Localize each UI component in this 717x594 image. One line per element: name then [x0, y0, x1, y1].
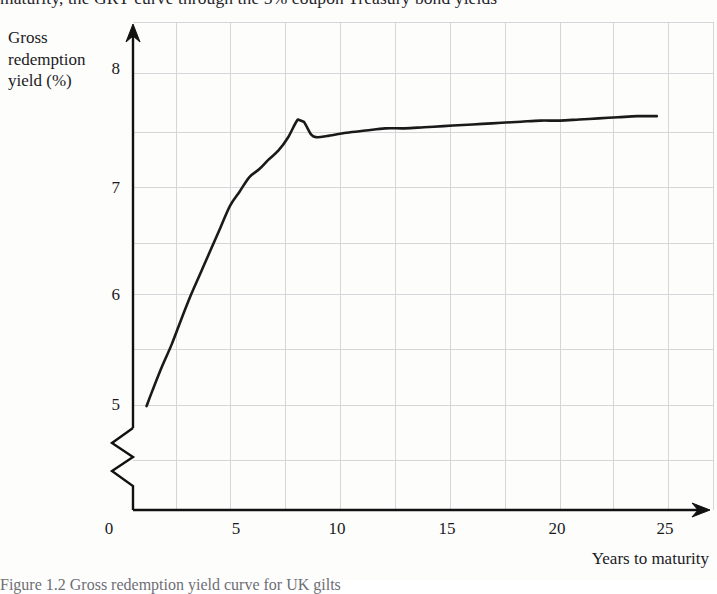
yield-curve-series: [147, 116, 657, 406]
vertical-gridlines: [176, 22, 713, 510]
x-axis: [133, 503, 710, 517]
horizontal-gridlines: [133, 22, 713, 460]
y-axis: [112, 24, 140, 510]
page-bottom-clipped-text: Figure 1.2 Gross redemption yield curve …: [0, 576, 717, 594]
